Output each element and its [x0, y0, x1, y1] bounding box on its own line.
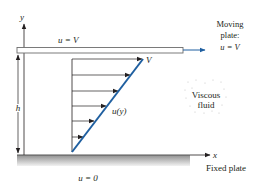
y-axis: y [19, 12, 24, 155]
moving-plate-label-line2: plate: [221, 30, 240, 40]
velocity-arrows [72, 59, 142, 137]
y-axis-label: y [19, 12, 24, 22]
x-axis: x [190, 150, 217, 160]
gap-dimension: h [16, 55, 21, 153]
gap-height-label: h [16, 103, 21, 113]
profile-top-velocity-label: V [146, 55, 153, 65]
fixed-plate-label: Fixed plate [206, 163, 246, 173]
fixed-plate [17, 155, 190, 166]
bottom-plate-velocity-label: u = 0 [78, 173, 98, 183]
viscous-fluid-label-line2: fluid [198, 100, 215, 110]
moving-plate [17, 48, 183, 54]
profile-curve-label: u(y) [112, 106, 127, 116]
couette-flow-diagram: x y u = V Moving plate: u = V h [0, 0, 254, 186]
moving-plate-label-line3: u = V [220, 42, 241, 52]
x-axis-label: x [212, 150, 217, 160]
moving-plate-label: Moving plate: u = V [217, 19, 245, 52]
viscous-fluid-region: Viscous fluid [185, 80, 227, 114]
velocity-profile: V u(y) [72, 55, 153, 152]
viscous-fluid-label-line1: Viscous [192, 90, 221, 100]
moving-plate-label-line1: Moving [217, 19, 245, 29]
linear-profile-line [72, 59, 143, 152]
top-plate-velocity-label: u = V [58, 35, 80, 45]
